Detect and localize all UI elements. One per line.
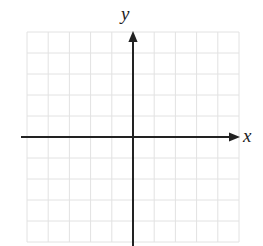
y-axis-label: y: [121, 4, 129, 23]
x-axis-label: x: [243, 126, 251, 145]
axes: [0, 0, 263, 246]
y-axis-arrowhead: [128, 31, 137, 42]
x-axis-arrowhead: [229, 132, 240, 141]
coordinate-grid-figure: y x: [0, 0, 263, 246]
